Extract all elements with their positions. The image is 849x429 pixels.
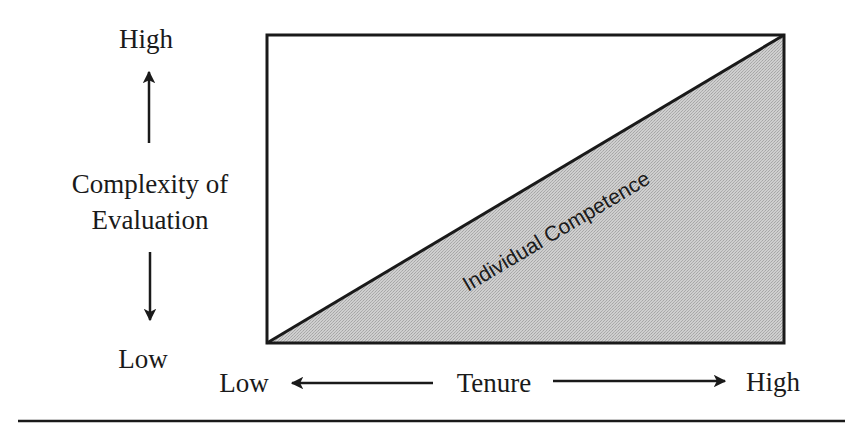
y-axis-title-line2: Evaluation [92, 205, 209, 235]
x-axis-low-label: Low [219, 368, 269, 398]
competence-diagram: Individual Competence High Complexity of… [0, 0, 849, 429]
y-axis-high-label: High [119, 24, 174, 54]
y-axis-title-line1: Complexity of [72, 169, 229, 199]
x-axis-title: Tenure [457, 368, 532, 398]
y-axis-low-label: Low [118, 344, 168, 374]
figure-canvas: Individual Competence High Complexity of… [0, 0, 849, 429]
x-axis-high-label: High [746, 367, 801, 397]
